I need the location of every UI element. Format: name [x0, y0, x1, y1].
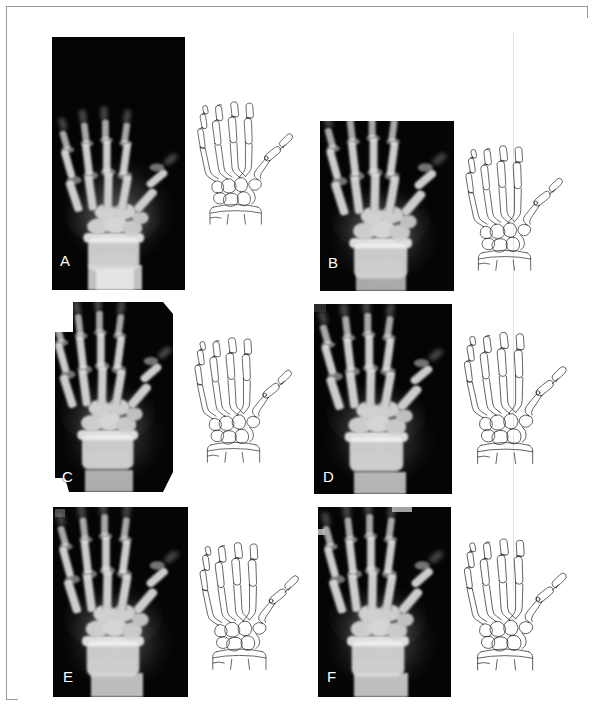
figure-root: A	[0, 0, 602, 718]
panel-f: F	[18, 18, 590, 702]
line-tracing-f	[454, 512, 572, 697]
line-tracing-f-content	[454, 512, 572, 697]
page-frame: A	[6, 6, 588, 700]
panel-label-b: B	[328, 255, 339, 270]
panel-label-e: E	[63, 669, 74, 684]
radiograph-f: F	[318, 507, 451, 697]
panel-label-f: F	[327, 669, 337, 684]
page-inner: A	[18, 18, 590, 702]
radiograph-f-content	[318, 507, 451, 697]
panel-label-d: D	[323, 469, 334, 484]
panel-label-c: C	[62, 469, 73, 484]
panel-label-a: A	[60, 253, 71, 268]
